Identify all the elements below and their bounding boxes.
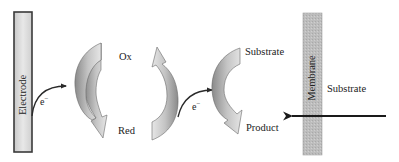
membrane-label: Membrane xyxy=(307,55,318,100)
bioelectrocatalysis-diagram: Electrode Membrane Ox Red Substrate Prod… xyxy=(0,0,399,162)
electron-charge: − xyxy=(44,95,48,103)
curved-arrow-red-to-ox-body xyxy=(152,47,178,140)
electron-label-2: e− xyxy=(192,101,200,112)
electron-label-1: e− xyxy=(40,96,48,107)
product-label: Product xyxy=(246,123,279,134)
electron-transfer-arrow-1 xyxy=(32,86,66,116)
substrate-label-inside: Substrate xyxy=(245,47,284,58)
curved-arrow-substrate-to-product-body xyxy=(212,48,242,134)
electrode-label: Electrode xyxy=(18,75,29,115)
ox-label: Ox xyxy=(119,52,132,63)
red-label: Red xyxy=(118,126,135,137)
electron-charge: − xyxy=(196,100,200,108)
substrate-label-outside: Substrate xyxy=(327,84,366,95)
